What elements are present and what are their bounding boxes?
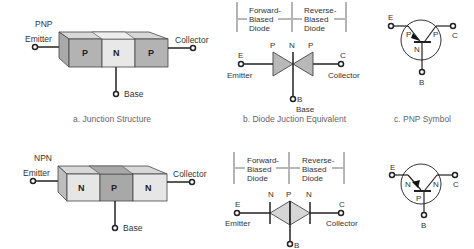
base-label: Base [124, 89, 144, 99]
bracket-text: Forward- [247, 156, 279, 165]
forward-diode-icon [270, 201, 290, 225]
npn-junction-structure: NPN Emitter N P N Collector Base [23, 153, 207, 233]
npn-symbol: E C B N N P [390, 163, 460, 230]
transistor-diagram: PNP Emitter P N P Collector Base a. Junc… [0, 0, 474, 249]
region-label: P [82, 48, 88, 58]
emitter-label: Emitter [23, 168, 50, 178]
collector-terminal [451, 24, 456, 29]
c-label: C [452, 31, 458, 40]
b-label: B [421, 221, 426, 230]
emitter-terminal [33, 45, 38, 50]
region-label: N [405, 180, 411, 189]
base-terminal [114, 92, 119, 97]
collector-label: Collector [175, 35, 209, 45]
c-label: C [453, 180, 459, 189]
collector-terminal [191, 46, 196, 51]
e-label: E [238, 51, 243, 60]
bracket-text: Diode [247, 174, 268, 183]
b-label: B [297, 95, 302, 104]
npn-type-label: NPN [34, 153, 52, 163]
collector-label: Collector [328, 71, 360, 80]
collector-terminal [190, 180, 195, 185]
caption-pnp-symbol: c. PNP Symbol [394, 114, 451, 124]
region-label: P [308, 41, 313, 50]
e-label: E [235, 200, 240, 209]
region-label: P [416, 194, 421, 203]
base-terminal [288, 242, 293, 247]
bracket-text: Reverse- [304, 6, 337, 15]
base-label: Base [296, 105, 315, 114]
pnp-diode-equivalent: Forward- Biased Diode Reverse- Biased Di… [227, 2, 360, 124]
bracket-text: Diode [249, 24, 270, 33]
base-terminal [291, 97, 296, 102]
base-terminal [420, 70, 425, 75]
emitter-terminal [31, 179, 36, 184]
region-label: N [306, 190, 312, 199]
region-label: N [289, 41, 295, 50]
caption-junction-structure: a. Junction Structure [73, 114, 151, 124]
base-terminal [422, 213, 427, 218]
c-label: C [340, 51, 346, 60]
region-label: N [113, 48, 120, 58]
region-label: N [433, 180, 439, 189]
emitter-label: Emitter [227, 71, 253, 80]
collector-label: Collector [326, 219, 358, 228]
bracket-text: Diode [304, 24, 325, 33]
bracket-text: Biased [249, 15, 273, 24]
pnp-type-label: PNP [35, 19, 53, 29]
emitter-terminal [389, 24, 394, 29]
region-label: P [148, 48, 154, 58]
reverse-diode-icon [293, 52, 313, 76]
npn-diode-equivalent: Forward- Biased Diode Reverse- Biased Di… [225, 152, 358, 249]
collector-label: Collector [173, 169, 207, 179]
bracket-text: Diode [302, 174, 323, 183]
region-label: N [78, 183, 85, 193]
region-label: P [406, 30, 411, 39]
emitter-terminal [239, 62, 244, 67]
base-label: Base [123, 223, 143, 233]
emitter-terminal [235, 211, 240, 216]
region-label: N [268, 190, 274, 199]
pnp-symbol: E C B P P N c. PNP Symbol [388, 13, 458, 124]
bracket-text: Forward- [249, 6, 281, 15]
emitter-label: Emitter [225, 219, 251, 228]
b-label: B [419, 78, 424, 87]
region-label: P [286, 190, 291, 199]
reverse-diode-icon [290, 201, 310, 225]
collector-terminal [453, 173, 458, 178]
c-label: C [339, 200, 345, 209]
forward-diode-icon [273, 52, 293, 76]
bracket-text: Reverse- [302, 156, 335, 165]
region-label: N [145, 183, 152, 193]
bracket-text: Biased [304, 15, 328, 24]
base-terminal [113, 226, 118, 231]
bracket-text: Biased [302, 165, 326, 174]
e-label: E [388, 13, 393, 22]
bracket-text: Biased [247, 165, 271, 174]
region-label: P [433, 30, 438, 39]
region-label: N [414, 45, 420, 54]
region-label: P [270, 41, 275, 50]
caption-diode-equivalent: b. Diode Juction Equivalent [243, 114, 347, 124]
collector-terminal [339, 211, 344, 216]
b-label: B [294, 241, 299, 249]
emitter-terminal [390, 173, 395, 178]
region-label: P [111, 183, 117, 193]
collector-terminal [339, 62, 344, 67]
emitter-label: Emitter [25, 34, 52, 44]
e-label: E [390, 163, 395, 172]
pnp-junction-structure: PNP Emitter P N P Collector Base a. Junc… [25, 19, 209, 124]
